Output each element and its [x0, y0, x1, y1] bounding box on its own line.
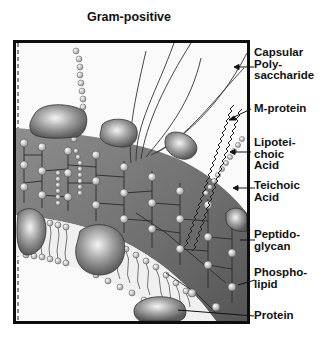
diagram-title: Gram-positive: [0, 10, 258, 24]
label-teichoic-acid: Teichoic Acid: [254, 180, 300, 203]
label-m-protein: M-protein: [254, 103, 306, 115]
label-peptidoglycan: Peptido- glycan: [254, 229, 300, 252]
cell-envelope-drawing: [16, 43, 247, 321]
label-lipoteichoic-acid: Lipotei- choic Acid: [254, 137, 296, 172]
label-phospholipid: Phospho- lipid: [254, 267, 307, 290]
cell-wall-illustration: [13, 40, 250, 324]
label-protein: Protein: [254, 310, 294, 322]
label-capsular-polysaccharide: Capsular Poly- saccharide: [254, 47, 314, 82]
